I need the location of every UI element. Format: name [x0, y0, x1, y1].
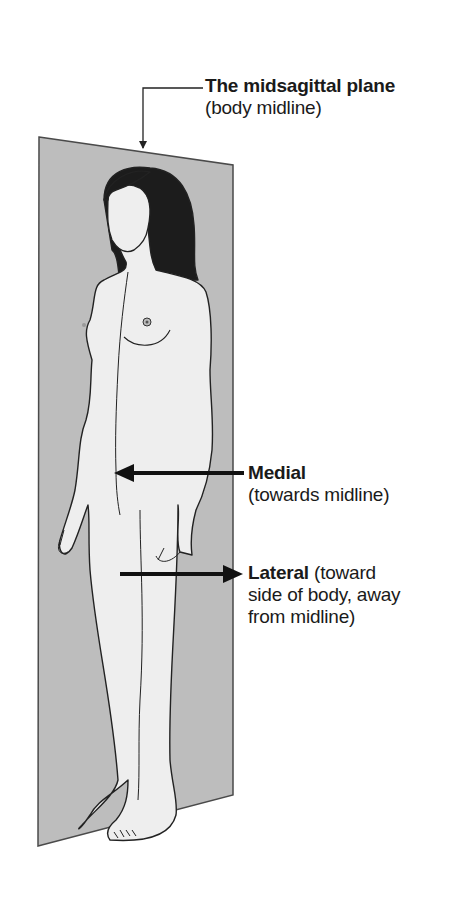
lateral-label: Lateral (toward side of body, away from …: [248, 562, 400, 628]
medial-label-note: (towards midline): [248, 484, 389, 505]
lateral-label-note-2: side of body, away: [248, 584, 400, 605]
nipple-profile: [82, 323, 86, 327]
plane-label-note: (body midline): [205, 97, 322, 118]
lateral-label-title: Lateral: [248, 562, 309, 583]
medial-label: Medial (towards midline): [248, 462, 389, 506]
midsagittal-plane-diagram: [0, 0, 475, 908]
lateral-label-note-1: (toward: [314, 562, 376, 583]
midsagittal-plane-label: The midsagittal plane (body midline): [205, 75, 395, 119]
plane-label-title: The midsagittal plane: [205, 75, 395, 96]
lateral-label-note-3: from midline): [248, 606, 355, 627]
medial-label-title: Medial: [248, 462, 306, 483]
plane-pointer-line: [143, 88, 203, 148]
